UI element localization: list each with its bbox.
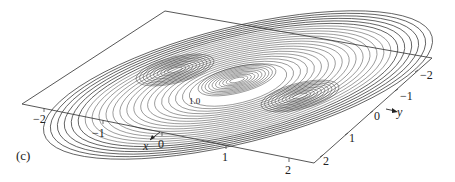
x-tick-label: −2 bbox=[33, 112, 46, 126]
y-tick-label: −2 bbox=[420, 68, 433, 82]
x-tick-label: 1 bbox=[222, 150, 228, 164]
panel-label: (c) bbox=[16, 148, 30, 163]
x-axis-name: x bbox=[142, 139, 149, 153]
x-tick-label: −1 bbox=[92, 126, 105, 140]
y-tick-label: 0 bbox=[374, 109, 380, 123]
x-tick-label: 0 bbox=[158, 137, 164, 151]
contour-level-label: 1.0 bbox=[189, 96, 201, 106]
contour-figure: −2 −1 0 1 2 −2 −1 0 1 2 x y 1.0 (c) bbox=[0, 0, 455, 182]
y-tick-label: −1 bbox=[400, 89, 413, 103]
y-tick-label: 2 bbox=[323, 154, 329, 168]
y-axis-name: y bbox=[396, 105, 403, 119]
x-tick-label: 2 bbox=[285, 163, 291, 177]
y-tick-label: 1 bbox=[349, 131, 355, 145]
contour-lines bbox=[30, 0, 446, 182]
